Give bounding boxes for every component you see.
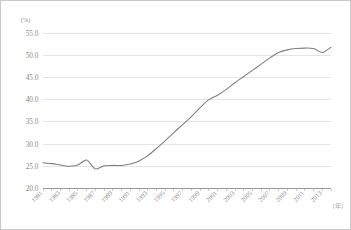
x-axis-tick-label: 2001 [204,189,218,203]
y-axis-tick-label: 50.0 [26,51,39,60]
x-axis-tick-label: 1983 [47,189,61,203]
x-axis-tick-label: 1985 [65,189,79,203]
y-axis-tick-label: 25.0 [26,162,39,171]
x-axis-tick-label: 1993 [134,189,148,203]
x-axis-tick-label: 2005 [239,189,253,203]
x-axis-tick-labels: 1981198319851987198919911993199519971999… [30,189,323,204]
x-axis-tick-label: 2013 [309,189,323,203]
x-axis-tick-label: 2007 [257,189,272,204]
x-axis-tick-label: 1999 [187,189,201,203]
y-axis-unit-label: (%) [21,16,30,24]
x-axis-tick-label: 1995 [152,189,166,203]
line-chart: 55.050.045.040.035.030.025.020.0 1981198… [1,1,351,230]
y-axis-tick-labels: 55.050.045.040.035.030.025.020.0 [26,29,39,194]
y-axis-tick-label: 40.0 [26,95,39,104]
y-axis-tick-label: 35.0 [26,117,39,126]
x-axis-tick-label: 1991 [117,189,131,203]
y-axis-tick-label: 45.0 [26,73,39,82]
gridlines [43,33,331,166]
chart-figure: 55.050.045.040.035.030.025.020.0 1981198… [0,0,351,230]
x-axis-unit-label: (年) [333,202,343,210]
x-axis-tick-label: 2009 [274,189,288,203]
data-series-line [43,47,331,169]
x-axis-tick-label: 1997 [169,189,184,204]
x-axis-tick-label: 2011 [292,189,306,203]
x-axis-tick-label: 1987 [82,189,97,204]
x-axis-tick-label: 1989 [100,189,114,203]
y-axis-tick-label: 55.0 [26,29,39,38]
x-axis-tick-label: 2003 [222,189,236,203]
y-axis-tick-label: 30.0 [26,140,39,149]
